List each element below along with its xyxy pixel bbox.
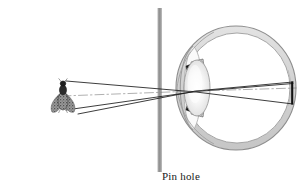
pinhole-barrier [158,8,163,172]
lens-highlight [188,65,203,103]
optics-diagram-svg [0,0,301,186]
fly-object [51,78,75,113]
figure-canvas: Pin hole [0,0,301,186]
pin-hole-label: Pin hole [162,170,200,182]
fly-thorax [59,85,66,95]
